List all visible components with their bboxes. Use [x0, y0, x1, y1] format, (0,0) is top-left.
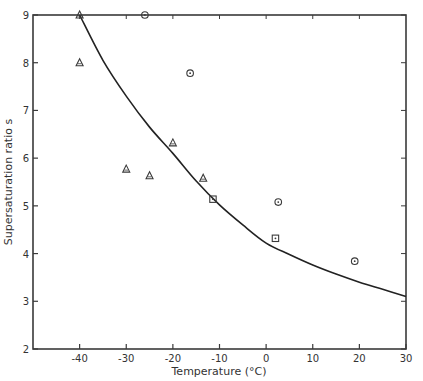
fit-curve-line: [80, 15, 406, 297]
chart: -40-30-20-100102030 23456789 Temperature…: [0, 0, 423, 381]
y-tick-label: 4: [23, 249, 29, 260]
x-tick-label: -10: [211, 353, 227, 364]
x-tick-label: -30: [118, 353, 134, 364]
data-points: [76, 11, 358, 265]
circle-marker-dot: [144, 14, 146, 16]
x-axis-title: Temperature (°C): [171, 365, 267, 378]
triangle-marker: [200, 174, 207, 181]
fit-curve: [80, 15, 406, 297]
square-marker-dot: [275, 237, 277, 239]
x-tick-label: 0: [263, 353, 269, 364]
x-tick-label: -40: [71, 353, 87, 364]
y-tick-label: 8: [23, 58, 29, 69]
y-tick-label: 9: [23, 10, 29, 21]
y-axis-title: Supersaturation ratio s: [2, 119, 15, 246]
plot-border: [33, 15, 406, 349]
y-tick-label: 7: [23, 105, 29, 116]
x-axis: -40-30-20-100102030: [71, 15, 412, 364]
y-tick-label: 2: [23, 344, 29, 355]
x-tick-label: 20: [353, 353, 366, 364]
triangle-marker: [76, 59, 83, 66]
plot-frame: [33, 15, 406, 349]
x-tick-label: -20: [165, 353, 181, 364]
x-tick-label: 30: [400, 353, 413, 364]
y-tick-label: 3: [23, 296, 29, 307]
triangle-marker: [146, 172, 153, 179]
x-tick-label: 10: [306, 353, 319, 364]
circle-marker-dot: [354, 260, 356, 262]
y-tick-label: 6: [23, 153, 29, 164]
square-marker-dot: [212, 198, 214, 200]
y-axis: 23456789: [23, 10, 406, 355]
circle-marker-dot: [277, 201, 279, 203]
triangle-marker: [123, 165, 130, 172]
circle-marker-dot: [189, 72, 191, 74]
y-tick-label: 5: [23, 201, 29, 212]
triangle-marker: [169, 139, 176, 146]
